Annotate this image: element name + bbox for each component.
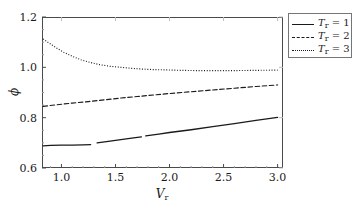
- y-tick-label-wrap: 0.6: [4, 168, 37, 179]
- legend-item-1[interactable]: Tr = 1: [289, 17, 351, 30]
- series-line-1-seg-1: [43, 145, 91, 146]
- x-tick-label: 1.0: [53, 172, 71, 183]
- legend-swatch-dashed-icon: [292, 32, 314, 42]
- series-line-3-seg-1: [43, 39, 278, 71]
- x-tick-label: 3.0: [269, 172, 287, 183]
- y-tick-label: 1.0: [4, 62, 37, 73]
- y-axis-title-symbol: ϕ: [7, 88, 21, 96]
- legend-rows: Tr = 1Tr = 2Tr = 3: [289, 17, 351, 56]
- x-axis-title-main: V: [156, 187, 165, 201]
- x-tick-label: 2.0: [161, 172, 179, 183]
- chart-figure: 0.60.81.01.2 1.01.52.02.53.0 Vr ϕ Tr = 1…: [0, 0, 356, 209]
- y-tick-label-wrap: 1.2: [4, 17, 37, 28]
- x-axis-title-subscript: r: [164, 193, 168, 202]
- legend-item-label: Tr = 3: [318, 44, 350, 55]
- legend: Tr = 1Tr = 2Tr = 3: [288, 13, 352, 58]
- series-line-1-seg-3: [146, 117, 278, 135]
- legend-swatch-solid-icon: [292, 19, 314, 29]
- series-line-2-seg-1: [43, 85, 278, 106]
- legend-item-label: Tr = 1: [318, 18, 350, 29]
- y-tick-label: 0.6: [4, 163, 37, 174]
- legend-swatch-dotted-icon: [292, 45, 314, 55]
- legend-item-3[interactable]: Tr = 3: [289, 43, 351, 56]
- y-tick-label: 1.2: [4, 12, 37, 23]
- y-tick-label: 0.8: [4, 112, 37, 123]
- x-tick-label: 1.5: [107, 172, 125, 183]
- legend-item-label: Tr = 2: [318, 31, 350, 42]
- y-tick-label-wrap: 1.0: [4, 67, 37, 78]
- legend-item-2[interactable]: Tr = 2: [289, 30, 351, 43]
- series-line-1-seg-2: [97, 137, 141, 143]
- x-tick-label: 2.5: [215, 172, 233, 183]
- y-tick-label-wrap: 0.8: [4, 118, 37, 129]
- y-axis-title: ϕ: [7, 88, 21, 96]
- data-curves: [43, 39, 278, 146]
- x-axis-title: Vr: [156, 187, 169, 201]
